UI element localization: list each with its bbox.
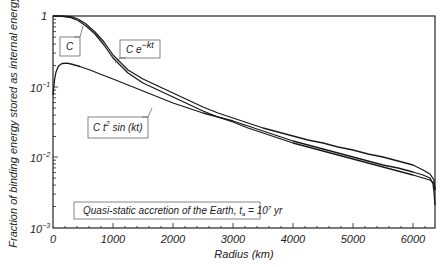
annotation-c: C [60, 26, 83, 56]
svg-text:0: 0 [50, 233, 57, 245]
x-axis-title: Radius (km) [214, 248, 274, 260]
svg-text:5000: 5000 [341, 233, 366, 245]
x-axis-ticks [65, 223, 425, 228]
x-tick-labels: 0 1000 2000 3000 4000 5000 6000 [50, 233, 426, 245]
svg-text:10−1: 10−1 [30, 81, 50, 94]
svg-text:1: 1 [41, 10, 47, 22]
y-tick-labels: 1 10−1 10−2 10−3 [30, 10, 50, 235]
svg-text:6000: 6000 [401, 233, 426, 245]
svg-text:C: C [66, 41, 74, 52]
svg-text:3000: 3000 [221, 233, 246, 245]
svg-text:10−3: 10−3 [30, 222, 50, 235]
svg-text:2000: 2000 [160, 233, 186, 245]
annotation-note: Quasi-static accretion of the Earth, ta … [74, 202, 283, 219]
svg-text:1000: 1000 [101, 233, 126, 245]
y-axis-ticks [53, 19, 58, 206]
svg-text:C t2 sin (kt): C t2 sin (kt) [93, 120, 142, 133]
y-axis-title: Fraction of binding energy stored as int… [7, 0, 19, 248]
annotation-c-t2-sin: C t2 sin (kt) [88, 108, 152, 138]
svg-text:4000: 4000 [281, 233, 306, 245]
svg-text:Quasi-static accretion of the: Quasi-static accretion of the Earth, ta … [83, 205, 283, 217]
annotation-c-exp: C e−kt [115, 40, 160, 63]
svg-text:10−2: 10−2 [30, 151, 50, 164]
chart: 0 1000 2000 3000 4000 5000 6000 1 10−1 1… [0, 0, 446, 267]
